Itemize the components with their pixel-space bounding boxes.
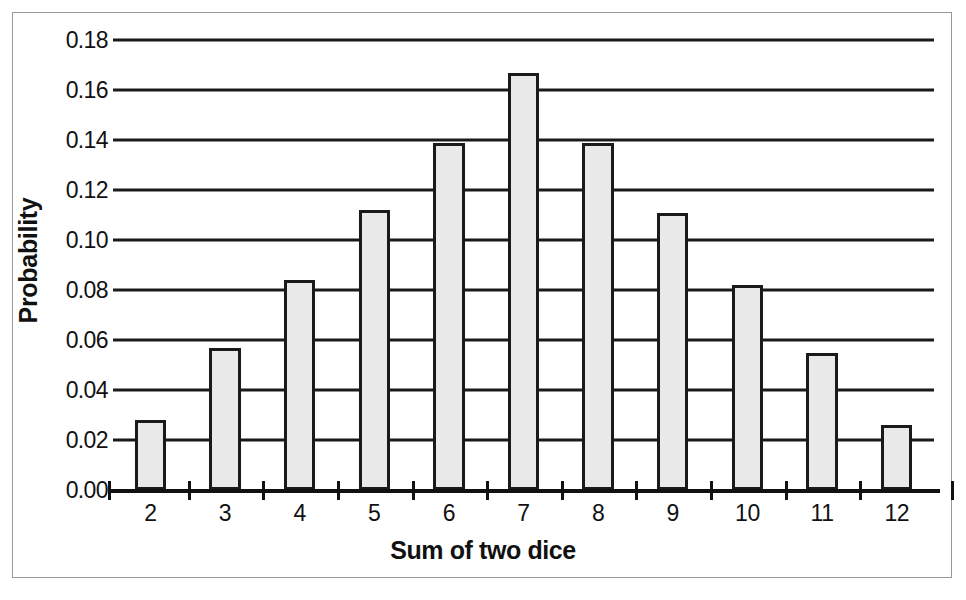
x-axis-tick <box>188 481 191 500</box>
bar <box>284 280 315 490</box>
y-axis-tick-label: 0.00 <box>66 477 108 504</box>
y-axis-tick-label: 0.02 <box>66 427 108 454</box>
y-axis-tick-label: 0.12 <box>66 177 108 204</box>
bar <box>582 143 613 491</box>
x-axis-tick <box>635 481 638 500</box>
x-axis-tick <box>337 481 340 500</box>
bar <box>359 210 390 490</box>
bar <box>135 420 166 490</box>
x-axis-tick-label: 11 <box>811 500 834 527</box>
x-axis-line <box>108 489 940 493</box>
bar <box>508 73 539 491</box>
x-axis-tick <box>412 481 415 500</box>
x-axis-tick-label: 3 <box>219 500 231 527</box>
x-axis-end-tick <box>951 481 954 500</box>
y-axis-tick-label: 0.16 <box>66 77 108 104</box>
y-axis-tick-label: 0.06 <box>66 327 108 354</box>
y-axis-origin-tick <box>108 481 111 500</box>
x-axis-tick <box>785 481 788 500</box>
bar-series <box>113 40 934 490</box>
x-axis-tick-label: 10 <box>735 500 760 527</box>
x-axis-tick <box>710 481 713 500</box>
x-axis-tick <box>486 481 489 500</box>
x-axis-title: Sum of two dice <box>0 536 966 565</box>
x-axis-tick-label: 5 <box>368 500 380 527</box>
x-axis-tick-label: 12 <box>884 500 909 527</box>
x-axis-tick-label: 9 <box>667 500 679 527</box>
x-axis-tick-label: 6 <box>443 500 455 527</box>
bar <box>657 213 688 491</box>
bar <box>433 143 464 491</box>
y-axis-tick-label: 0.18 <box>66 27 108 54</box>
x-axis-tick-label: 7 <box>517 500 529 527</box>
bar <box>806 353 837 491</box>
bar <box>732 285 763 490</box>
y-axis-title: Probability <box>14 171 43 351</box>
bar <box>881 425 912 490</box>
x-axis-tick <box>262 481 265 500</box>
bar <box>209 348 240 491</box>
y-axis-tick-label: 0.08 <box>66 277 108 304</box>
x-axis-tick <box>859 481 862 500</box>
y-axis-tick-label: 0.14 <box>66 127 108 154</box>
y-axis-tick-label: 0.04 <box>66 377 108 404</box>
y-axis-tick-labels: 0.000.020.040.060.080.100.120.140.160.18 <box>46 0 112 600</box>
y-axis-tick-label: 0.10 <box>66 227 108 254</box>
x-axis-tick-label: 4 <box>293 500 305 527</box>
x-axis-tick <box>561 481 564 500</box>
figure: Probability 0.000.020.040.060.080.100.12… <box>0 0 966 600</box>
x-axis-tick-label: 8 <box>592 500 604 527</box>
x-axis-tick-label: 2 <box>144 500 156 527</box>
